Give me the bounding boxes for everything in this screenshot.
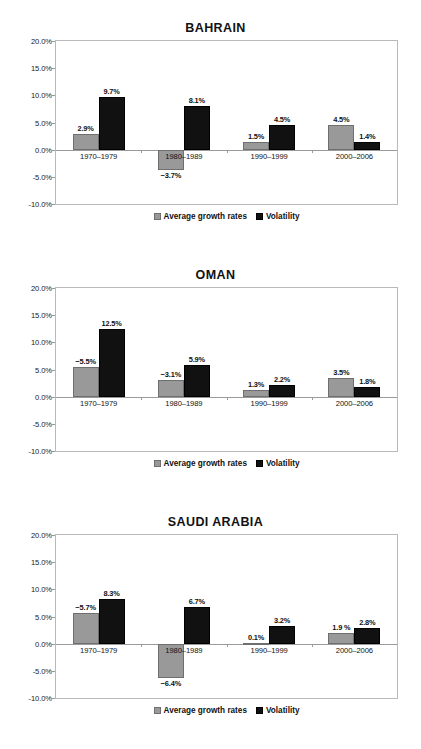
y-axis-tick-label: 5.0%	[35, 612, 52, 621]
bar-volatility	[269, 626, 295, 643]
legend-item-average-growth-rates: Average growth rates	[154, 212, 247, 221]
bar-value-label: 3.2%	[258, 616, 306, 625]
y-axis-tick-label: 10.0%	[31, 338, 52, 347]
chart-title: SAUDI ARABIA	[10, 514, 421, 531]
y-axis-tick-label: -10.0%	[29, 200, 52, 209]
chart-title: BAHRAIN	[10, 20, 421, 37]
legend-label-volatility: Volatility	[266, 212, 300, 221]
y-axis-tick-mark	[52, 68, 55, 69]
bar-average-growth-rate	[243, 390, 269, 397]
bar-group: −5.5%12.5%1970–1979	[56, 288, 141, 451]
y-axis-tick-label: 20.0%	[31, 284, 52, 293]
x-axis-category-label: 2000–2006	[312, 399, 397, 408]
y-axis-tick-mark	[52, 424, 55, 425]
bar-value-label: 9.7%	[88, 87, 136, 96]
bar-value-label: −6.4%	[147, 679, 195, 688]
y-axis-tick-label: 0.0%	[35, 392, 52, 401]
legend-item-volatility: Volatility	[256, 459, 300, 468]
y-axis: 20.0%15.0%10.0%5.0%0.0%-5.0%-10.0%	[4, 288, 52, 451]
bar-average-growth-rate	[73, 134, 99, 150]
bar-volatility	[269, 125, 295, 149]
bar-volatility	[354, 387, 380, 397]
x-axis-category-label: 2000–2006	[312, 646, 397, 655]
y-axis-tick-mark	[52, 589, 55, 590]
bar-value-label: 5.9%	[173, 355, 221, 364]
y-axis-tick-label: -10.0%	[29, 694, 52, 703]
bar-volatility	[99, 599, 125, 644]
legend-swatch-growth-icon	[154, 213, 161, 220]
y-axis-tick-mark	[52, 95, 55, 96]
y-axis-tick-mark	[52, 671, 55, 672]
y-axis-tick-mark	[52, 397, 55, 398]
chart-oman: OMAN20.0%15.0%10.0%5.0%0.0%-5.0%-10.0%−5…	[0, 267, 421, 512]
bar-volatility	[99, 329, 125, 397]
legend-swatch-growth-icon	[154, 460, 161, 467]
bar-group: 1.5%4.5%1990–1999	[227, 41, 312, 204]
legend-label-volatility: Volatility	[266, 459, 300, 468]
y-axis-tick-mark	[52, 288, 55, 289]
legend-swatch-volatility-icon	[256, 460, 263, 467]
x-axis-category-label: 1970–1979	[56, 399, 141, 408]
bar-value-label: 4.5%	[258, 115, 306, 124]
x-axis-category-label: 1970–1979	[56, 646, 141, 655]
x-axis-category-label: 2000–2006	[312, 152, 397, 161]
bar-value-label: 3.5%	[317, 368, 365, 377]
y-axis-tick-mark	[52, 123, 55, 124]
x-axis-category-label: 1990–1999	[227, 152, 312, 161]
legend-item-average-growth-rates: Average growth rates	[154, 706, 247, 715]
y-axis-tick-label: 5.0%	[35, 365, 52, 374]
x-axis-category-label: 1990–1999	[227, 646, 312, 655]
bar-group: −5.7%8.3%1970–1979	[56, 535, 141, 698]
legend-label-average-growth-rates: Average growth rates	[164, 459, 247, 468]
y-axis-tick-mark	[52, 535, 55, 536]
y-axis-tick-label: -5.0%	[33, 172, 52, 181]
bar-average-growth-rate	[73, 367, 99, 397]
legend-swatch-volatility-icon	[256, 213, 263, 220]
y-axis-tick-mark	[52, 204, 55, 205]
bar-group: −3.1%5.9%1980–1989	[141, 288, 226, 451]
charts-page: BAHRAIN20.0%15.0%10.0%5.0%0.0%-5.0%-10.0…	[0, 0, 421, 749]
y-axis-tick-mark	[52, 370, 55, 371]
bar-volatility	[184, 106, 210, 150]
chart-legend: Average growth ratesVolatility	[55, 706, 398, 715]
bar-value-label: 2.8%	[343, 618, 391, 627]
bar-volatility	[99, 97, 125, 150]
legend-swatch-growth-icon	[154, 707, 161, 714]
legend-swatch-volatility-icon	[256, 707, 263, 714]
y-axis-tick-mark	[52, 315, 55, 316]
chart-legend: Average growth ratesVolatility	[55, 459, 398, 468]
y-axis-tick-mark	[52, 617, 55, 618]
y-axis-tick-mark	[52, 644, 55, 645]
y-axis-tick-label: 0.0%	[35, 145, 52, 154]
y-axis-tick-label: 15.0%	[31, 64, 52, 73]
bar-groups: −5.5%12.5%1970–1979−3.1%5.9%1980–19891.3…	[56, 288, 397, 451]
plot-area: 20.0%15.0%10.0%5.0%0.0%-5.0%-10.0%2.9%9.…	[55, 40, 398, 205]
bar-average-growth-rate	[158, 380, 184, 397]
y-axis-tick-label: 20.0%	[31, 531, 52, 540]
chart-bahrain: BAHRAIN20.0%15.0%10.0%5.0%0.0%-5.0%-10.0…	[0, 20, 421, 265]
bar-average-growth-rate	[328, 633, 354, 643]
bar-volatility	[354, 142, 380, 150]
bar-volatility	[354, 628, 380, 643]
y-axis-tick-label: -5.0%	[33, 419, 52, 428]
bar-group: −6.4%6.7%1980–1989	[141, 535, 226, 698]
bar-group: 0.1%3.2%1990–1999	[227, 535, 312, 698]
bar-group: 4.5%1.4%2000–2006	[312, 41, 397, 204]
bar-volatility	[269, 385, 295, 397]
x-axis-category-label: 1990–1999	[227, 399, 312, 408]
bar-value-label: 4.5%	[317, 115, 365, 124]
bar-group: 1.3%2.2%1990–1999	[227, 288, 312, 451]
y-axis-tick-mark	[52, 41, 55, 42]
bar-volatility	[184, 365, 210, 397]
bar-value-label: 8.1%	[173, 96, 221, 105]
legend-label-volatility: Volatility	[266, 706, 300, 715]
x-axis-category-label: 1980–1989	[141, 152, 226, 161]
bar-group: 1.9 %2.8%2000–2006	[312, 535, 397, 698]
bar-average-growth-rate	[73, 613, 99, 644]
plot-area: 20.0%15.0%10.0%5.0%0.0%-5.0%-10.0%−5.5%1…	[55, 287, 398, 452]
y-axis-tick-label: 10.0%	[31, 91, 52, 100]
legend-label-average-growth-rates: Average growth rates	[164, 212, 247, 221]
y-axis-tick-mark	[52, 150, 55, 151]
bar-value-label: 2.2%	[258, 375, 306, 384]
bar-value-label: 6.7%	[173, 597, 221, 606]
